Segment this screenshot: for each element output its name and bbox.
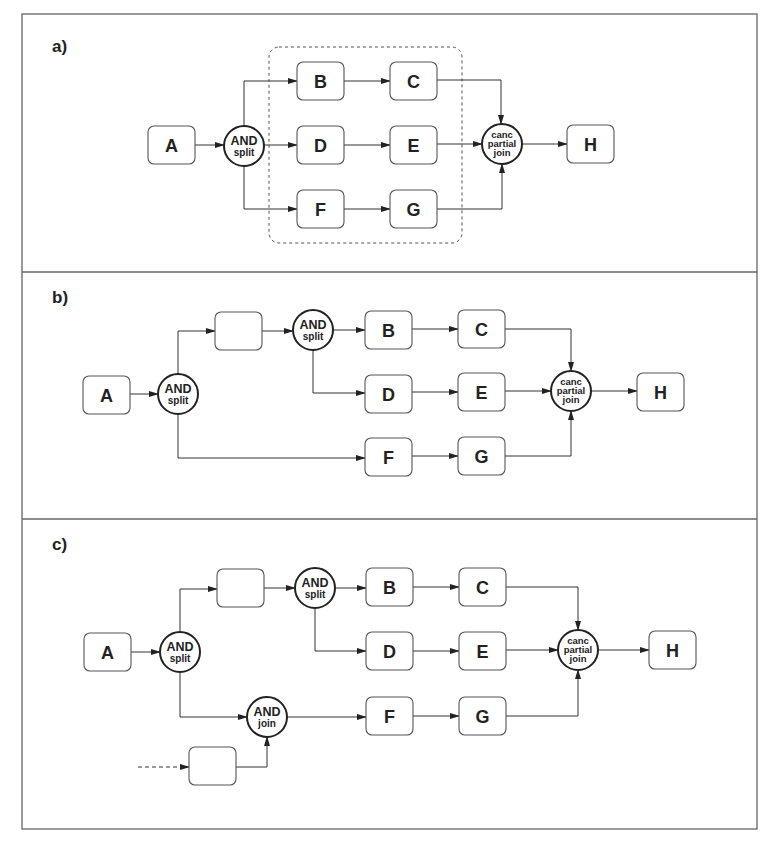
gateway-label-line: AND — [299, 318, 326, 332]
task-label: D — [382, 385, 395, 405]
flow-arrow — [437, 164, 502, 209]
task-label: G — [406, 200, 420, 220]
flow-arrow — [506, 670, 578, 716]
task-label: A — [101, 643, 114, 663]
panel-b: b) AANDsplitANDsplitBCDEFGcancpartialjoi… — [52, 288, 684, 476]
task-label: B — [383, 578, 396, 598]
task-label: F — [315, 200, 326, 220]
gateway-and-split[interactable]: ANDsplit — [295, 568, 335, 608]
workflow-diagram-figure: a) AANDsplitBCDEFGcancpartialjoinH b) AA… — [0, 0, 771, 841]
flow-arrow — [244, 166, 297, 209]
flow-arrow — [437, 80, 501, 124]
task-node-f[interactable]: F — [365, 438, 412, 476]
task-box — [217, 569, 264, 607]
task-label: B — [382, 321, 395, 341]
task-label: E — [475, 383, 487, 403]
task-label: H — [654, 383, 667, 403]
task-label: F — [384, 707, 395, 727]
task-node-unlabeled[interactable] — [217, 569, 264, 607]
gateway-and-split[interactable]: ANDsplit — [160, 632, 200, 672]
task-box — [189, 747, 236, 785]
task-label: A — [165, 136, 178, 156]
task-node-a[interactable]: A — [84, 633, 131, 671]
task-node-e[interactable]: E — [459, 632, 506, 670]
gateway-and-join[interactable]: ANDjoin — [247, 697, 287, 737]
task-label: C — [407, 72, 420, 92]
gateway-label-line: split — [234, 147, 255, 158]
task-label: D — [314, 136, 327, 156]
gateway-label-line: split — [305, 589, 326, 600]
gateway-label-line: join — [257, 718, 276, 729]
flow-arrow — [244, 81, 297, 126]
task-node-g[interactable]: G — [458, 437, 505, 475]
gateway-and-split[interactable]: ANDsplit — [293, 310, 333, 350]
gateway-and-split[interactable]: ANDsplit — [158, 374, 198, 414]
panel-label-b: b) — [52, 288, 68, 307]
task-label: E — [476, 642, 488, 662]
flow-arrow — [180, 672, 247, 717]
gateway-label-line: join — [562, 394, 580, 405]
panel-c: c) AANDsplitANDsplitBCDEANDjoinFGcancpar… — [52, 535, 696, 785]
gateway-label-line: AND — [253, 705, 280, 719]
task-node-h[interactable]: H — [567, 125, 614, 163]
task-node-g[interactable]: G — [390, 190, 437, 228]
gateway-canc-partial-join[interactable]: cancpartialjoin — [558, 630, 598, 670]
task-node-d[interactable]: D — [366, 632, 413, 670]
task-label: F — [383, 448, 394, 468]
task-node-d[interactable]: D — [365, 375, 412, 413]
gateway-label-line: join — [569, 653, 587, 664]
flow-arrow — [505, 411, 571, 456]
gateway-label-line: AND — [164, 382, 191, 396]
task-node-unlabeled[interactable] — [215, 312, 262, 350]
flow-arrow — [313, 350, 365, 393]
task-node-g[interactable]: G — [459, 697, 506, 735]
task-node-c[interactable]: C — [458, 310, 505, 348]
task-label: G — [475, 707, 489, 727]
gateway-canc-partial-join[interactable]: cancpartialjoin — [551, 371, 591, 411]
task-label: D — [383, 642, 396, 662]
task-box — [215, 312, 262, 350]
gateway-label-line: AND — [230, 134, 257, 148]
gateway-label-line: split — [303, 331, 324, 342]
task-label: E — [407, 136, 419, 156]
task-label: A — [100, 386, 113, 406]
task-node-b[interactable]: B — [366, 568, 413, 606]
task-node-c[interactable]: C — [459, 568, 506, 606]
task-label: C — [475, 320, 488, 340]
panel-a: a) AANDsplitBCDEFGcancpartialjoinH — [52, 37, 614, 243]
task-label: B — [314, 72, 327, 92]
flow-arrow — [178, 414, 365, 458]
task-node-a[interactable]: A — [83, 376, 130, 414]
diagram-svg: a) AANDsplitBCDEFGcancpartialjoinH b) AA… — [0, 0, 771, 841]
gateway-canc-partial-join[interactable]: cancpartialjoin — [482, 124, 522, 164]
task-node-b[interactable]: B — [297, 62, 344, 100]
gateway-label-line: AND — [301, 576, 328, 590]
task-node-e[interactable]: E — [458, 373, 505, 411]
task-node-f[interactable]: F — [366, 697, 413, 735]
flow-arrow — [505, 329, 571, 371]
task-node-e[interactable]: E — [390, 126, 437, 164]
flow-arrow — [236, 737, 267, 767]
flow-arrow — [180, 589, 217, 632]
task-node-h[interactable]: H — [637, 373, 684, 411]
task-label: G — [474, 447, 488, 467]
gateway-label-line: join — [493, 147, 511, 158]
task-node-c[interactable]: C — [390, 62, 437, 100]
flow-arrow — [506, 587, 578, 630]
flow-arrow — [178, 331, 215, 374]
flow-arrow — [315, 608, 366, 651]
task-node-d[interactable]: D — [297, 126, 344, 164]
gateway-and-split[interactable]: ANDsplit — [224, 126, 264, 166]
task-label: H — [666, 641, 679, 661]
panel-label-a: a) — [52, 37, 67, 56]
panel-label-c: c) — [52, 535, 67, 554]
gateway-label-line: split — [170, 653, 191, 664]
task-label: C — [476, 578, 489, 598]
task-label: H — [584, 135, 597, 155]
task-node-b[interactable]: B — [365, 311, 412, 349]
task-node-h[interactable]: H — [649, 631, 696, 669]
task-node-f[interactable]: F — [297, 190, 344, 228]
gateway-label-line: AND — [166, 640, 193, 654]
task-node-a[interactable]: A — [148, 126, 195, 164]
task-node-unlabeled[interactable] — [189, 747, 236, 785]
